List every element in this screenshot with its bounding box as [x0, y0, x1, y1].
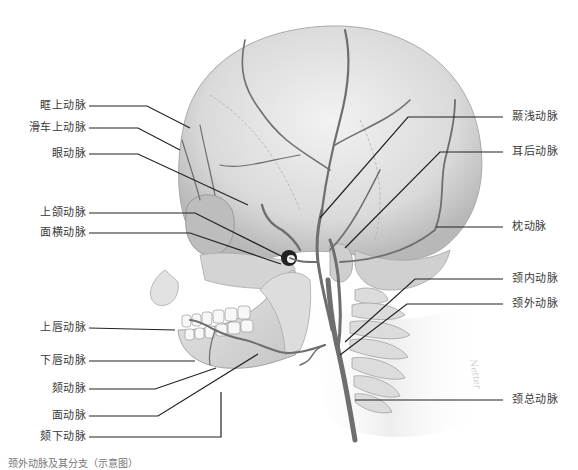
- label-facial-artery: 面动脉: [30, 409, 86, 422]
- label-mental-artery: 颏动脉: [30, 382, 86, 395]
- figure-caption: 颈外动脉及其分支（示意图）: [8, 458, 138, 470]
- label-submental-artery: 颏下动脉: [30, 430, 86, 443]
- label-superior-labial-artery: 上唇动脉: [30, 321, 86, 334]
- label-maxillary-artery: 上颌动脉: [30, 206, 86, 219]
- label-inferior-labial-artery: 下唇动脉: [30, 354, 86, 367]
- label-internal-carotid-artery: 颈内动脉: [512, 272, 558, 285]
- label-superficial-temporal-artery: 颞浅动脉: [512, 110, 558, 123]
- label-common-carotid-artery: 颈总动脉: [512, 393, 558, 406]
- cranium: [151, 26, 482, 305]
- label-external-carotid-artery: 颈外动脉: [512, 297, 558, 310]
- label-occipital-artery: 枕动脉: [512, 220, 547, 233]
- label-transverse-facial-artery: 面横动脉: [30, 226, 86, 239]
- label-ophthalmic-artery: 眼动脉: [30, 147, 86, 160]
- label-supraorbital-artery: 眶上动脉: [30, 99, 86, 112]
- label-supratrochlear-artery: 滑车上动脉: [14, 121, 86, 134]
- label-posterior-auricular-artery: 耳后动脉: [512, 145, 558, 158]
